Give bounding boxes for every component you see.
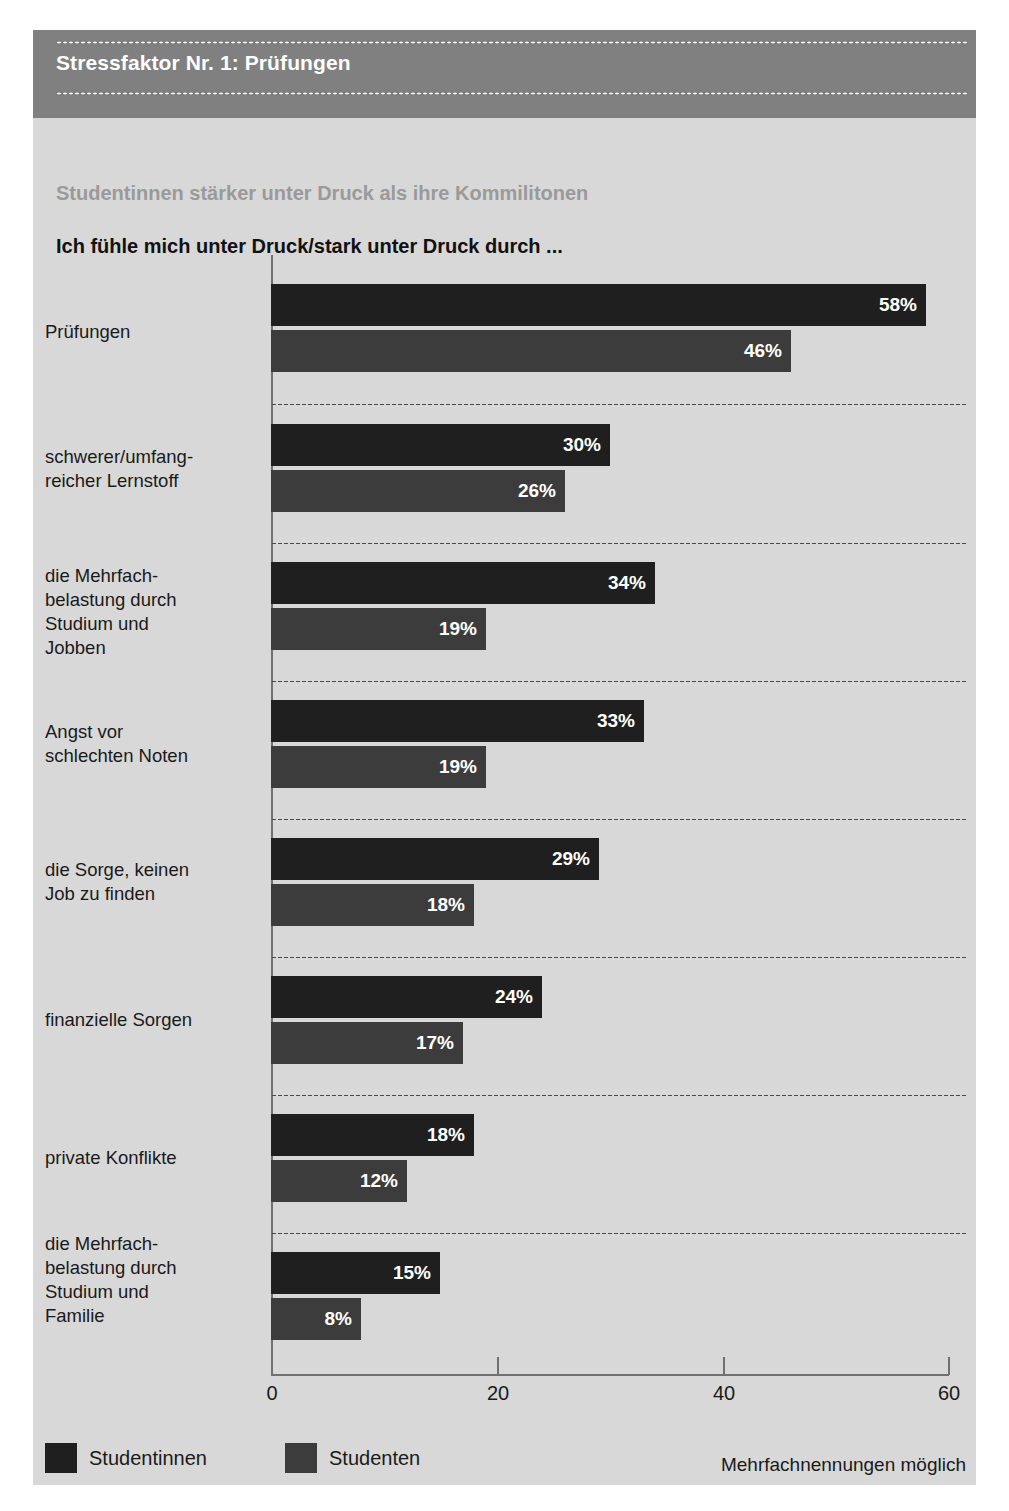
category-label-line: private Konflikte <box>45 1146 260 1170</box>
footnote: Mehrfachnennungen möglich <box>721 1454 966 1476</box>
x-tick-label-20: 20 <box>487 1382 509 1405</box>
y-axis-line <box>271 255 273 1375</box>
legend-swatch-studentinnen <box>45 1443 77 1473</box>
bar-studentinnen: 34% <box>271 562 655 604</box>
bar-studentinnen: 30% <box>271 424 610 466</box>
group-separator <box>271 1232 968 1235</box>
bar-studenten: 19% <box>271 608 486 650</box>
bar-value: 12% <box>360 1170 398 1192</box>
category-label-line: die Mehrfach- <box>45 1232 260 1256</box>
x-tick-0 <box>271 1357 273 1375</box>
bar-studenten: 19% <box>271 746 486 788</box>
x-tick-label-0: 0 <box>266 1382 277 1405</box>
category-label-line: Angst vor <box>45 720 260 744</box>
legend-label-studentinnen: Studentinnen <box>89 1447 207 1470</box>
x-tick-40 <box>723 1357 725 1375</box>
category-label-line: Studium und <box>45 1280 260 1304</box>
x-tick-20 <box>497 1357 499 1375</box>
bar-studentinnen: 58% <box>271 284 926 326</box>
category-label-line: Studium und <box>45 612 260 636</box>
infographic-page: Stressfaktor Nr. 1: Prüfungen Studentinn… <box>33 30 976 1485</box>
legend-label-studenten: Studenten <box>329 1447 420 1470</box>
bar-studentinnen: 18% <box>271 1114 474 1156</box>
category-label-line: finanzielle Sorgen <box>45 1008 260 1032</box>
group-separator <box>271 956 968 959</box>
bar-studentinnen: 33% <box>271 700 644 742</box>
bar-value: 34% <box>608 572 646 594</box>
bar-studenten: 18% <box>271 884 474 926</box>
legend-swatch-studenten <box>285 1443 317 1473</box>
bar-value: 15% <box>393 1262 431 1284</box>
category-label-line: Jobben <box>45 636 260 660</box>
bar-value: 19% <box>439 618 477 640</box>
bar-value: 18% <box>427 1124 465 1146</box>
category-label-line: Prüfungen <box>45 321 130 342</box>
x-axis-line <box>271 1374 949 1376</box>
category-label-line: belastung durch <box>45 1256 260 1280</box>
bar-value: 29% <box>552 848 590 870</box>
category-label: Angst vor schlechten Noten <box>45 720 260 768</box>
bar-value: 19% <box>439 756 477 778</box>
bar-value: 24% <box>495 986 533 1008</box>
bar-value: 18% <box>427 894 465 916</box>
category-label-line: reicher Lernstoff <box>45 469 260 493</box>
group-separator <box>271 1094 968 1097</box>
category-label: die Mehrfach- belastung durch Studium un… <box>45 1232 260 1328</box>
bar-studenten: 26% <box>271 470 565 512</box>
bar-value: 58% <box>879 294 917 316</box>
category-label-line: schwerer/umfang- <box>45 445 260 469</box>
group-separator <box>271 403 968 406</box>
category-label-line: Familie <box>45 1304 260 1328</box>
bar-value: 26% <box>518 480 556 502</box>
category-label-line: schlechten Noten <box>45 744 260 768</box>
group-separator <box>271 818 968 821</box>
category-label: finanzielle Sorgen <box>45 1008 260 1032</box>
x-tick-label-60: 60 <box>938 1382 960 1405</box>
category-label-line: die Sorge, keinen <box>45 858 260 882</box>
bar-studenten: 17% <box>271 1022 463 1064</box>
category-label-line: Job zu finden <box>45 882 260 906</box>
category-label: private Konflikte <box>45 1146 260 1170</box>
bar-studenten: 8% <box>271 1298 361 1340</box>
bar-studentinnen: 15% <box>271 1252 440 1294</box>
category-label-line: belastung durch <box>45 588 260 612</box>
bar-value: 8% <box>325 1308 352 1330</box>
category-label: schwerer/umfang- reicher Lernstoff <box>45 445 260 493</box>
x-tick-60 <box>948 1357 950 1375</box>
bar-studentinnen: 24% <box>271 976 542 1018</box>
x-tick-label-40: 40 <box>713 1382 735 1405</box>
bar-value: 30% <box>563 434 601 456</box>
bar-value: 17% <box>416 1032 454 1054</box>
group-separator <box>271 542 968 545</box>
bar-value: 46% <box>744 340 782 362</box>
category-label: Prüfungen <box>45 320 260 344</box>
category-label: die Mehrfach- belastung durch Studium un… <box>45 564 260 660</box>
category-label-line: die Mehrfach- <box>45 564 260 588</box>
bar-studenten: 12% <box>271 1160 407 1202</box>
group-separator <box>271 680 968 683</box>
bar-chart: 0 20 40 60 Prüfungen 58% 46% schwerer/um… <box>33 30 976 1485</box>
bar-studenten: 46% <box>271 330 791 372</box>
category-label: die Sorge, keinen Job zu finden <box>45 858 260 906</box>
bar-value: 33% <box>597 710 635 732</box>
bar-studentinnen: 29% <box>271 838 599 880</box>
